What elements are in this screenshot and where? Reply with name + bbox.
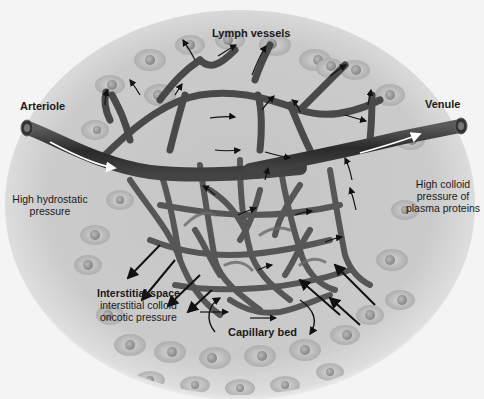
label-line: plasma proteins bbox=[403, 202, 483, 214]
capillary-bed-diagram: Lymph vessels Arteriole Venule High hydr… bbox=[0, 0, 484, 399]
label-line: pressure of bbox=[403, 190, 483, 202]
label-interstitial-space: Interstitial space interstitial colloid … bbox=[97, 287, 180, 323]
label-line: Interstitial space bbox=[97, 287, 180, 299]
label-line: oncotic pressure bbox=[97, 311, 180, 323]
page-edge-marks bbox=[0, 0, 3, 399]
label-line: pressure bbox=[8, 205, 92, 217]
label-line: High hydrostatic bbox=[8, 193, 92, 205]
label-venule: Venule bbox=[425, 98, 460, 110]
label-line: High colloid bbox=[403, 178, 483, 190]
label-high-hydrostatic-pressure: High hydrostatic pressure bbox=[8, 193, 92, 217]
label-lymph-vessels: Lymph vessels bbox=[212, 27, 290, 39]
label-arteriole: Arteriole bbox=[20, 100, 65, 112]
label-high-colloid-pressure: High colloid pressure of plasma proteins bbox=[403, 178, 483, 214]
label-line: interstitial colloid bbox=[97, 299, 180, 311]
label-capillary-bed: Capillary bed bbox=[228, 326, 297, 338]
